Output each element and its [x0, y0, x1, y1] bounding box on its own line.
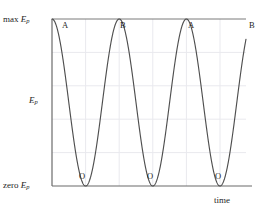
- horizontal-gridlines: [52, 52, 246, 152]
- y-axis-label-max-prefix: max: [3, 14, 19, 24]
- curve-point-label-o: O: [79, 172, 85, 181]
- curve-point-label-o: O: [147, 172, 153, 181]
- y-axis-label-zero-prefix: zero: [3, 180, 19, 190]
- y-axis-label-mid: Ep: [29, 96, 38, 106]
- y-axis-label-max: max Ep: [3, 15, 30, 25]
- vertical-gridlines: [86, 19, 220, 186]
- y-axis-label-mid-subscript: p: [35, 98, 38, 105]
- y-axis-label-zero-subscript: p: [26, 183, 29, 190]
- energy-time-figure: max Ep Ep zero Ep time ABABOOO: [0, 0, 265, 212]
- y-axis-label-max-subscript: p: [26, 17, 29, 24]
- plot-canvas: [0, 0, 265, 212]
- curve-point-label-b: B: [120, 21, 126, 30]
- curve-point-label-o: O: [215, 172, 221, 181]
- y-axis-label-zero: zero Ep: [3, 181, 30, 191]
- curve-point-label-b: B: [249, 21, 255, 30]
- x-axis-label: time: [214, 196, 230, 205]
- potential-energy-curve: [52, 19, 246, 186]
- curve-point-label-a: A: [188, 21, 194, 30]
- curve-point-label-a: A: [62, 21, 68, 30]
